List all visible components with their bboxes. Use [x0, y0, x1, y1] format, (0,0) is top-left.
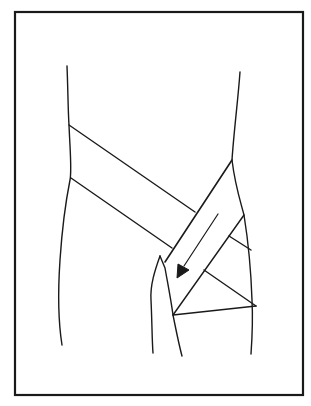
wrap-bottom-edge [173, 306, 256, 315]
figure-frame [15, 12, 303, 395]
thigh-outline [151, 256, 160, 353]
wrap-line-2 [204, 270, 256, 306]
arrow-head-icon [177, 264, 189, 278]
band-lower-edge [71, 178, 172, 248]
diag-band-inner-edge [173, 215, 244, 315]
bandage-diagram [0, 0, 311, 406]
torso-right-outline [232, 72, 252, 354]
torso-left-outline [59, 66, 71, 345]
band-upper-edge [69, 125, 195, 212]
